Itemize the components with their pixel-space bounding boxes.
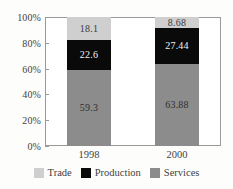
y-tick-label: 80%	[22, 37, 41, 48]
legend-label: Trade	[48, 167, 72, 178]
y-tick-label: 40%	[22, 89, 41, 100]
legend-item-production[interactable]: Production	[81, 167, 141, 178]
legend-item-trade[interactable]: Trade	[34, 167, 72, 178]
bar-group[interactable]: 18.122.659.3	[67, 17, 111, 146]
bar-segment-value: 27.44	[165, 41, 189, 51]
x-axis: 19982000	[45, 149, 221, 165]
x-tick-label: 2000	[167, 149, 188, 160]
bar-group[interactable]: 8.6827.4463.88	[155, 17, 199, 146]
y-tick-mark	[45, 69, 49, 70]
legend-label: Services	[164, 167, 200, 178]
bar-segment-trade[interactable]: 8.68	[155, 17, 199, 28]
y-tick-label: 100%	[17, 12, 41, 23]
y-tick-mark	[45, 94, 49, 95]
bar-segment-value: 8.68	[168, 18, 186, 28]
chart-legend: TradeProductionServices	[0, 167, 233, 178]
bars-layer: 18.122.659.38.6827.4463.88	[45, 17, 221, 146]
bar-segment-value: 63.88	[165, 100, 189, 110]
legend-label: Production	[95, 167, 141, 178]
stacked-bar-chart: 0%20%40%60%80%100% 18.122.659.38.6827.44…	[0, 0, 233, 189]
y-tick-label: 20%	[22, 115, 41, 126]
bar-segment-services[interactable]: 63.88	[155, 64, 199, 146]
y-tick-mark	[45, 120, 49, 121]
bar-segment-trade[interactable]: 18.1	[67, 17, 111, 40]
bar-segment-production[interactable]: 22.6	[67, 40, 111, 69]
legend-swatch-services	[150, 168, 160, 178]
bar-segment-value: 22.6	[80, 50, 98, 60]
y-tick-label: 60%	[22, 63, 41, 74]
y-tick-mark	[45, 17, 49, 18]
legend-item-services[interactable]: Services	[150, 167, 200, 178]
bar-stack: 18.122.659.3	[67, 17, 111, 146]
bar-stack: 8.6827.4463.88	[155, 17, 199, 146]
legend-swatch-trade	[34, 168, 44, 178]
y-tick-mark	[45, 43, 49, 44]
x-tick-label: 1998	[79, 149, 100, 160]
bar-segment-production[interactable]: 27.44	[155, 28, 199, 63]
y-axis: 0%20%40%60%80%100%	[0, 17, 41, 146]
bar-segment-services[interactable]: 59.3	[67, 70, 111, 146]
bar-segment-value: 59.3	[80, 103, 98, 113]
legend-swatch-production	[81, 168, 91, 178]
bar-segment-value: 18.1	[80, 24, 98, 34]
y-tick-label: 0%	[27, 141, 41, 152]
y-tick-mark	[45, 146, 49, 147]
